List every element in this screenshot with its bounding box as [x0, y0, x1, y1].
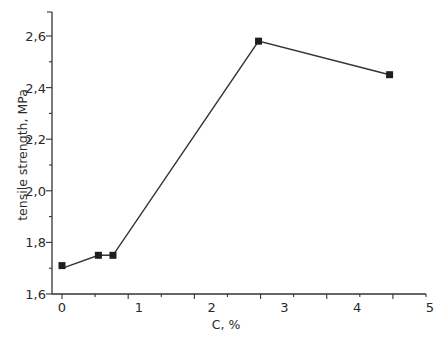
- series-layer: [59, 38, 394, 269]
- y-tick-label: 2,6: [25, 29, 46, 44]
- axes: 012345 1,61,82,02,22,42,6: [25, 12, 434, 315]
- x-axis-label: C, %: [212, 317, 241, 332]
- x-tick-label: 2: [207, 300, 215, 315]
- y-tick-label: 1,8: [25, 235, 46, 250]
- x-tick-label: 4: [353, 300, 361, 315]
- data-point-marker: [386, 71, 393, 78]
- x-tick-label: 1: [135, 300, 143, 315]
- data-point-marker: [95, 252, 102, 259]
- x-tick-label: 0: [58, 300, 66, 315]
- chart: 012345 1,61,82,02,22,42,6 C, % tensile s…: [0, 0, 445, 344]
- data-point-marker: [109, 252, 116, 259]
- x-tick-label: 5: [426, 300, 434, 315]
- x-tick-label: 3: [280, 300, 288, 315]
- series-line: [64, 41, 390, 267]
- y-tick-label: 1,6: [25, 287, 46, 302]
- y-axis-label: tensile strength, MPa: [15, 89, 30, 221]
- data-point-marker: [59, 262, 66, 269]
- data-point-marker: [255, 38, 262, 45]
- x-ticks: 012345: [58, 294, 434, 315]
